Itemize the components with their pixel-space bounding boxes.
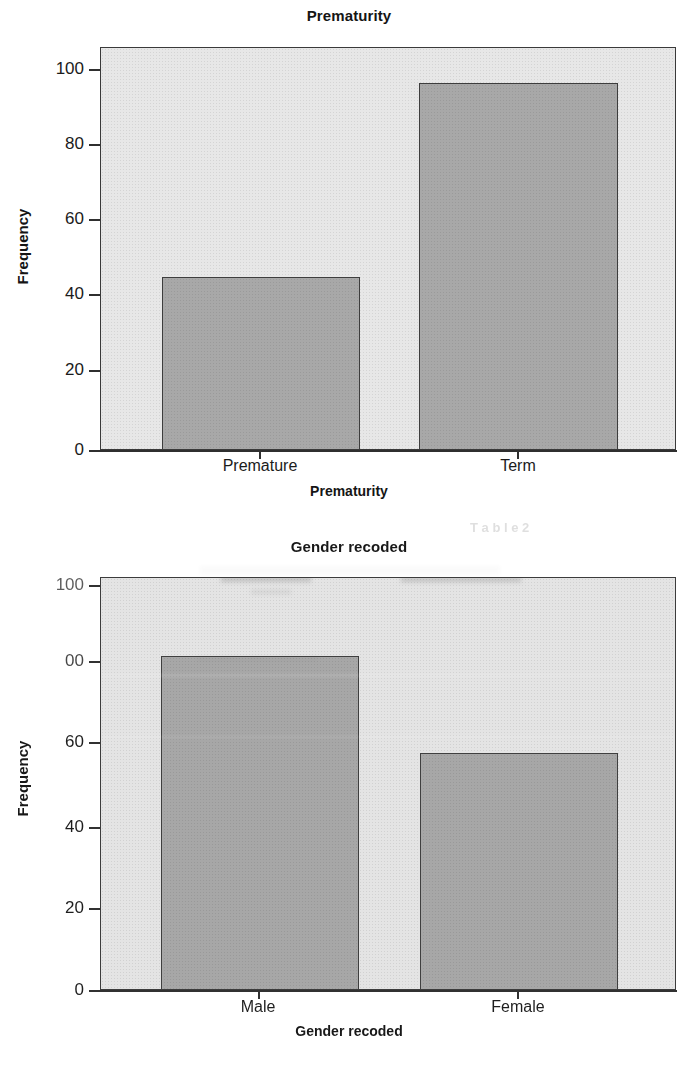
- y-tick-label: 60: [24, 731, 84, 752]
- bar-grain-texture: [421, 754, 617, 989]
- y-tick-mark: [89, 144, 100, 146]
- bar-male[interactable]: [161, 656, 359, 989]
- y-tick-mark: [89, 742, 100, 744]
- chart-title-prematurity: Prematurity: [0, 7, 698, 24]
- y-tick-label: 40: [24, 283, 84, 304]
- y-tick-mark: [89, 219, 100, 221]
- plot-area-prematurity: [100, 47, 676, 450]
- y-tick-label: 0: [24, 439, 84, 460]
- bar-female[interactable]: [420, 753, 618, 989]
- figure-gender-recoded: T a b l e 2 Gender recoded Frequency 100…: [0, 508, 698, 1080]
- x-tick-label-premature: Premature: [160, 456, 360, 476]
- y-tick-mark: [89, 908, 100, 910]
- x-axis-baseline: [89, 990, 677, 992]
- y-tick-mark: [89, 661, 100, 663]
- bar-grain-texture: [163, 278, 359, 449]
- y-tick-label: 100: [24, 58, 84, 79]
- scan-artifact: [401, 577, 521, 582]
- figure-prematurity: Prematurity Frequency 100 80 60 40 20 0: [0, 0, 698, 508]
- x-axis-baseline: [89, 450, 677, 452]
- y-tick-mark: [89, 69, 100, 71]
- scan-artifact: [251, 590, 291, 594]
- y-tick-label: 40: [24, 816, 84, 837]
- scan-ghost-text: T a b l e 2: [470, 520, 529, 535]
- y-tick-label: 80: [24, 133, 84, 154]
- x-axis-title-gender-recoded: Gender recoded: [0, 1023, 698, 1039]
- bar-premature[interactable]: [162, 277, 360, 449]
- chart-title-gender-recoded: Gender recoded: [0, 538, 698, 555]
- x-tick-label-male: Male: [158, 997, 358, 1017]
- plot-area-gender-recoded: [100, 577, 676, 990]
- scan-artifact: [200, 566, 500, 575]
- y-tick-mark: [89, 827, 100, 829]
- y-tick-label: 20: [24, 897, 84, 918]
- bar-term[interactable]: [419, 83, 618, 449]
- y-tick-label: 60: [24, 208, 84, 229]
- x-tick-label-female: Female: [418, 997, 618, 1017]
- bar-grain-texture: [162, 657, 358, 989]
- y-tick-label: 20: [24, 359, 84, 380]
- bar-grain-texture: [420, 84, 617, 449]
- y-tick-label: 100: [24, 574, 84, 595]
- x-tick-label-term: Term: [418, 456, 618, 476]
- y-tick-mark: [89, 585, 100, 587]
- y-tick-mark: [89, 294, 100, 296]
- x-axis-title-prematurity: Prematurity: [0, 483, 698, 499]
- y-tick-mark: [89, 370, 100, 372]
- scan-artifact: [221, 577, 311, 582]
- scan-ghost-text: [170, 1058, 174, 1073]
- y-tick-label: 00: [24, 650, 84, 671]
- y-tick-label: 0: [24, 979, 84, 1000]
